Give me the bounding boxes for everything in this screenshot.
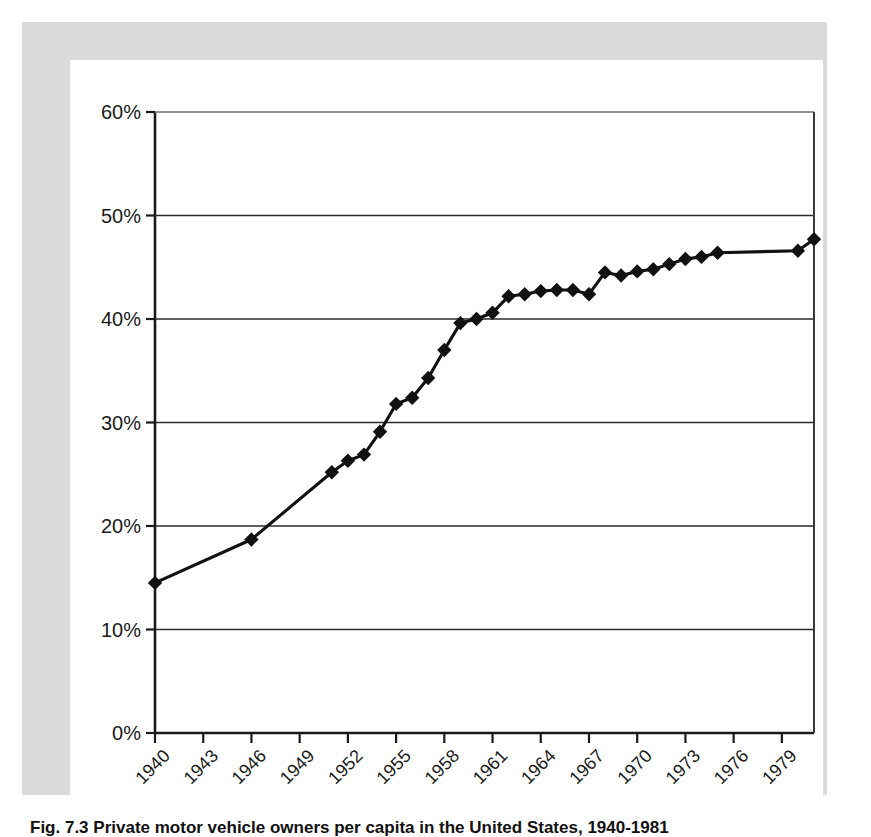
x-tick-label-1943: 1943	[180, 746, 222, 788]
page-white-area: 0%10%20%30%40%50%60% 1940194319461949195…	[70, 60, 823, 802]
y-tick-label-30: 30%	[101, 412, 141, 434]
y-axis-ticks: 0%10%20%30%40%50%60%	[101, 101, 155, 744]
x-tick-label-1952: 1952	[324, 746, 366, 788]
chart-svg: 0%10%20%30%40%50%60% 1940194319461949195…	[70, 60, 823, 802]
x-tick-label-1979: 1979	[758, 746, 800, 788]
line-chart: 0%10%20%30%40%50%60% 1940194319461949195…	[70, 60, 823, 802]
x-tick-label-1964: 1964	[517, 746, 559, 788]
figure-caption: Fig. 7.3 Private motor vehicle owners pe…	[30, 818, 850, 837]
y-tick-label-10: 10%	[101, 619, 141, 641]
x-tick-label-1940: 1940	[131, 746, 173, 788]
x-axis-ticks: 1940194319461949195219551958196119641967…	[131, 733, 800, 788]
x-tick-label-1973: 1973	[662, 746, 704, 788]
y-tick-label-60: 60%	[101, 101, 141, 123]
x-tick-label-1949: 1949	[276, 746, 318, 788]
y-tick-label-50: 50%	[101, 205, 141, 227]
x-tick-label-1958: 1958	[421, 746, 463, 788]
scanned-page-border: 0%10%20%30%40%50%60% 1940194319461949195…	[22, 22, 827, 795]
y-tick-label-20: 20%	[101, 515, 141, 537]
x-tick-label-1976: 1976	[710, 746, 752, 788]
x-tick-label-1967: 1967	[565, 746, 607, 788]
x-tick-label-1961: 1961	[469, 746, 511, 788]
x-tick-label-1946: 1946	[228, 746, 270, 788]
y-tick-label-0: 0%	[112, 722, 141, 744]
y-tick-label-40: 40%	[101, 308, 141, 330]
x-tick-label-1955: 1955	[372, 746, 414, 788]
x-tick-label-1970: 1970	[614, 746, 656, 788]
